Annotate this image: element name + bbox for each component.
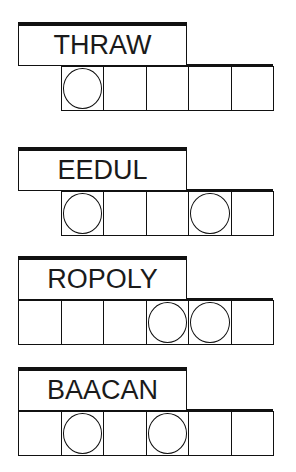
circle-marker <box>63 413 103 454</box>
answer-cell[interactable] <box>146 191 190 236</box>
answer-cells <box>18 300 274 346</box>
scrambled-word-box: BAACAN <box>18 367 187 411</box>
circle-marker <box>148 413 188 454</box>
answer-cells <box>18 411 274 457</box>
scrambled-word: THRAW <box>54 32 152 59</box>
answer-cell[interactable] <box>103 411 147 456</box>
answer-cell-circled[interactable] <box>61 66 105 111</box>
scrambled-word: BAACAN <box>47 377 158 404</box>
answer-cell-circled[interactable] <box>146 411 190 456</box>
answer-cells <box>18 191 274 237</box>
scrambled-word-box: ROPOLY <box>18 256 187 300</box>
answer-cell[interactable] <box>231 411 275 456</box>
answer-cell[interactable] <box>61 300 105 345</box>
answer-cell[interactable] <box>103 66 147 111</box>
answer-cell[interactable] <box>188 66 232 111</box>
answer-cell[interactable] <box>103 191 147 236</box>
scrambled-word: EEDUL <box>57 157 147 184</box>
jumble-puzzle-2: EEDUL <box>18 147 274 239</box>
circle-marker <box>63 68 103 109</box>
answer-cell-circled[interactable] <box>61 191 105 236</box>
answer-cell[interactable] <box>18 411 62 456</box>
circle-marker <box>190 193 230 234</box>
circle-marker <box>148 302 188 343</box>
answer-cell[interactable] <box>103 300 147 345</box>
answer-cell[interactable] <box>231 300 275 345</box>
jumble-puzzle-1: THRAW <box>18 22 274 114</box>
scrambled-word-box: EEDUL <box>18 147 187 191</box>
answer-cells <box>18 66 274 112</box>
answer-cell-circled[interactable] <box>188 191 232 236</box>
answer-cell-circled[interactable] <box>61 411 105 456</box>
scrambled-word-box: THRAW <box>18 22 187 66</box>
answer-cell[interactable] <box>231 66 275 111</box>
answer-cell[interactable] <box>231 191 275 236</box>
circle-marker <box>63 193 103 234</box>
jumble-puzzle-3: ROPOLY <box>18 256 274 348</box>
answer-cell-circled[interactable] <box>146 300 190 345</box>
circle-marker <box>190 302 230 343</box>
answer-cell-circled[interactable] <box>188 300 232 345</box>
scrambled-word: ROPOLY <box>47 266 158 293</box>
jumble-puzzle-4: BAACAN <box>18 367 274 459</box>
answer-cell[interactable] <box>18 300 62 345</box>
answer-cell[interactable] <box>146 66 190 111</box>
answer-cell[interactable] <box>188 411 232 456</box>
